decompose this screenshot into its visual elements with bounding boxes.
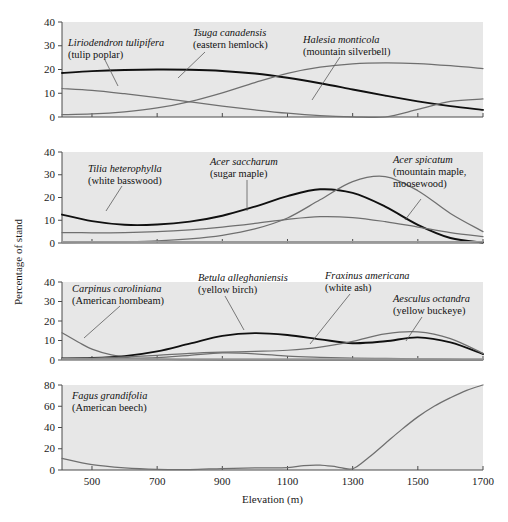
y-tick-label: 60 (44, 400, 56, 412)
y-tick-label: 0 (50, 354, 56, 366)
x-tick-label: 1500 (407, 475, 430, 487)
y-tick-label: 20 (44, 442, 56, 454)
species-label: Fagus grandifolia(American beech) (71, 390, 147, 414)
x-axis-labels: 5007009001100130015001700Elevation (m) (84, 475, 495, 506)
species-label: Halesia monticola(mountain silverbell) (302, 34, 390, 58)
y-tick-label: 10 (44, 334, 56, 346)
species-label: Carpinus caroliniana(American hornbeam) (72, 283, 164, 307)
chart-canvas: 0102030400102030400102030400204060805007… (0, 0, 508, 522)
y-tick-label: 30 (44, 39, 56, 51)
species-label: Tsuga canadensis(eastern hemlock) (193, 27, 268, 51)
x-tick-label: 700 (149, 475, 166, 487)
y-tick-label: 0 (50, 111, 56, 123)
y-tick-label: 20 (44, 315, 56, 327)
y-tick-label: 20 (44, 191, 56, 203)
x-tick-label: 500 (84, 475, 101, 487)
elevation-species-figure: 0102030400102030400102030400204060805007… (0, 0, 508, 522)
y-tick-label: 0 (50, 237, 56, 249)
y-tick-label: 80 (44, 379, 56, 391)
x-axis-title: Elevation (m) (242, 493, 303, 506)
species-label: Tilia heterophylla(white basswood) (88, 163, 162, 187)
y-tick-label: 40 (44, 16, 56, 28)
y-tick-label: 10 (44, 87, 56, 99)
y-tick-label: 40 (44, 146, 56, 158)
species-label: Aesculus octandra(yellow buckeye) (392, 293, 470, 317)
x-tick-label: 1300 (342, 475, 365, 487)
y-tick-label: 0 (50, 464, 56, 476)
y-tick-label: 30 (44, 295, 56, 307)
x-tick-label: 1100 (277, 475, 299, 487)
y-tick-label: 10 (44, 214, 56, 226)
y-tick-label: 40 (44, 276, 56, 288)
y-axis-title: Percentage of stand (12, 218, 24, 305)
y-tick-label: 30 (44, 168, 56, 180)
x-tick-label: 1700 (472, 475, 495, 487)
y-tick-label: 40 (44, 421, 56, 433)
y-tick-label: 20 (44, 63, 56, 75)
x-tick-label: 900 (214, 475, 231, 487)
